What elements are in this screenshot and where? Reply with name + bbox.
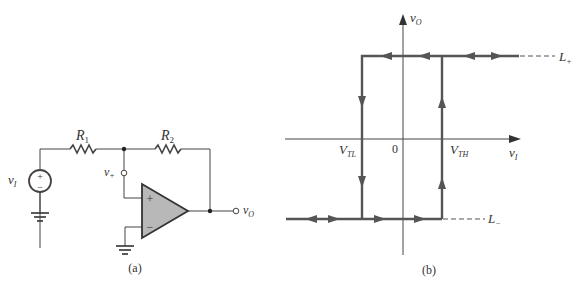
caption-a: (a) (128, 261, 141, 275)
arrow-left-icon (380, 52, 392, 60)
opamp-minus-sign: − (147, 220, 154, 234)
arrow-up-icon (438, 96, 446, 108)
wire-source-top (40, 149, 70, 248)
arrow-down-icon (358, 96, 366, 108)
arrow-right-icon (374, 215, 386, 223)
label-y-axis-vo: vO (410, 10, 422, 27)
resistor-r1-icon (70, 145, 96, 153)
arrow-left-icon (418, 52, 430, 60)
x-axis-arrow-icon (509, 135, 521, 143)
upper-level-line (362, 56, 519, 219)
arrow-down-icon (358, 176, 366, 188)
circuit-diagram (40, 145, 233, 248)
ground-icon-opamp (116, 246, 134, 254)
arrow-right-icon (328, 215, 340, 223)
arrow-left-icon (305, 215, 317, 223)
label-vtl: VTL (339, 142, 356, 159)
label-x-axis-vi: vI (509, 145, 518, 162)
label-r1: R1 (75, 128, 89, 145)
wire-minus-ground (125, 227, 142, 246)
terminal-vo-icon (233, 208, 239, 214)
arrow-left-icon (463, 52, 475, 60)
source-plus-sign: + (37, 171, 43, 182)
label-vth: VTH (450, 142, 469, 159)
junction-dot-output (208, 209, 212, 213)
label-lplus: L+ (558, 49, 572, 66)
wire-vplus-input (124, 176, 142, 198)
arrow-right-icon (491, 52, 503, 60)
label-origin: 0 (392, 142, 398, 156)
label-vo: vO (243, 203, 254, 219)
figure-canvas: + − + − R1 R2 vI v+ vO (a) (0, 0, 583, 291)
opamp-plus-sign: + (147, 192, 154, 206)
source-minus-sign: − (37, 182, 43, 193)
label-r2: R2 (160, 128, 174, 145)
wire-r2-feedback (181, 149, 210, 211)
caption-b: (b) (422, 263, 436, 277)
arrow-up-icon (438, 177, 446, 189)
resistor-r2-icon (155, 145, 181, 153)
label-vi: vI (8, 172, 17, 189)
junction-dot-input (122, 147, 126, 151)
terminal-vplus-icon (121, 170, 127, 176)
transfer-characteristic (285, 14, 555, 255)
arrow-right-icon (414, 215, 426, 223)
label-lminus: L− (487, 211, 501, 228)
label-vplus: v+ (104, 165, 115, 180)
y-axis-arrow-icon (399, 14, 407, 25)
arrowheads (305, 52, 503, 223)
